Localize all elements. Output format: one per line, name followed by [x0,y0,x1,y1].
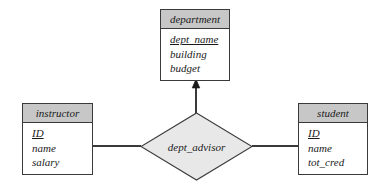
attribute-row: salary [32,155,92,170]
entity-instructor-title: instructor [23,104,92,123]
entity-student-attributes: ID name tot_cred [299,123,367,174]
attribute-label: budget [170,62,200,74]
attribute-row: tot_cred [308,155,367,170]
diamond-shape [140,112,253,181]
attribute-row: name [32,141,92,156]
relationship-dept-advisor[interactable]: dept_advisor [140,112,253,181]
attribute-label: ID [308,127,320,139]
attribute-row: ID [32,126,92,141]
attribute-label: building [170,48,207,60]
attribute-row: ID [308,126,367,141]
entity-instructor[interactable]: instructor ID name salary [22,103,93,175]
attribute-label: tot_cred [308,156,344,168]
entity-department-attributes: dept_name building budget [161,29,229,80]
entity-student-title: student [299,104,367,123]
attribute-label: ID [32,127,44,139]
attribute-row: dept_name [170,32,229,47]
entity-department-title: department [161,10,229,29]
attribute-label: salary [32,156,60,168]
attribute-label: dept_name [170,33,218,45]
attribute-row: budget [170,61,229,76]
entity-student[interactable]: student ID name tot_cred [298,103,368,175]
entity-department[interactable]: department dept_name building budget [160,9,230,81]
er-diagram-canvas: department dept_name building budget ins… [0,0,380,195]
attribute-row: name [308,141,367,156]
attribute-row: building [170,47,229,62]
attribute-label: name [32,142,56,154]
entity-instructor-attributes: ID name salary [23,123,92,174]
attribute-label: name [308,142,332,154]
